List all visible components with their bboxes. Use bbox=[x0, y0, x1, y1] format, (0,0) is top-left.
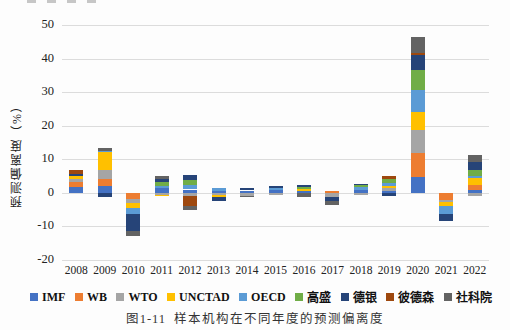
bar-segment-2019-WTO bbox=[382, 188, 396, 191]
legend-item-彼德森: 彼德森 bbox=[386, 288, 434, 306]
bar-segment-2020-WTO bbox=[411, 130, 425, 153]
x-axis-tick-labels: 2008200920102011201220132014201520162017… bbox=[62, 264, 489, 280]
figure-caption: 图1-11 样本机构在不同年度的预测偏离度 bbox=[0, 308, 510, 327]
legend-label: WB bbox=[87, 290, 107, 305]
bar-segment-2013-德银 bbox=[212, 197, 226, 201]
x-tick-label-2014: 2014 bbox=[236, 264, 259, 276]
y-tick-label: 0 bbox=[14, 185, 54, 200]
bar-segment-2009-UNCTAD bbox=[98, 152, 112, 170]
x-tick-label-2008: 2008 bbox=[65, 264, 88, 276]
bar-segment-2021-德银 bbox=[439, 214, 453, 222]
legend-item-WB: WB bbox=[75, 290, 107, 305]
gridline-20 bbox=[62, 126, 489, 127]
legend-item-德银: 德银 bbox=[341, 288, 377, 306]
legend-swatch-icon bbox=[341, 293, 349, 301]
bar-segment-2021-OECD bbox=[439, 206, 453, 213]
x-tick-label-2016: 2016 bbox=[292, 264, 315, 276]
x-tick-label-2022: 2022 bbox=[463, 264, 486, 276]
bar-segment-2022-德银 bbox=[468, 162, 482, 170]
legend-label: 彼德森 bbox=[398, 288, 434, 306]
bar-segment-2010-德银 bbox=[126, 214, 140, 231]
bar-segment-2014-社科院 bbox=[240, 196, 254, 197]
x-tick-label-2013: 2013 bbox=[207, 264, 230, 276]
bar-segment-2022-OECD bbox=[468, 176, 482, 177]
bar-segment-2022-高盛 bbox=[468, 170, 482, 176]
bar-segment-2022-UNCTAD bbox=[468, 178, 482, 185]
bar-segment-2009-德银 bbox=[98, 193, 112, 197]
legend-label: 高盛 bbox=[307, 288, 331, 306]
bar-segment-2011-德银 bbox=[155, 179, 169, 182]
bar-segment-2019-UNCTAD bbox=[382, 186, 396, 187]
bar-segment-2015-OECD bbox=[269, 188, 283, 190]
bar-segment-2009-社科院 bbox=[98, 148, 112, 151]
bar-segment-2016-德银 bbox=[297, 185, 311, 187]
y-tick-label: 30 bbox=[14, 84, 54, 99]
x-tick-label-2020: 2020 bbox=[406, 264, 429, 276]
x-tick-label-2017: 2017 bbox=[321, 264, 344, 276]
bar-segment-2012-彼德森 bbox=[183, 196, 197, 207]
legend-label: 社科院 bbox=[456, 288, 492, 306]
legend-item-社科院: 社科院 bbox=[444, 288, 492, 306]
bar-segment-2016-社科院 bbox=[297, 193, 311, 197]
bar-segment-2009-WTO bbox=[98, 170, 112, 179]
x-tick-label-2015: 2015 bbox=[264, 264, 287, 276]
bar-segment-2009-OECD bbox=[98, 151, 112, 152]
x-tick-label-2019: 2019 bbox=[378, 264, 401, 276]
bar-segment-2009-IMF bbox=[98, 186, 112, 193]
x-tick-label-2009: 2009 bbox=[93, 264, 116, 276]
y-tick-label: 10 bbox=[14, 151, 54, 166]
bar-segment-2016-高盛 bbox=[297, 187, 311, 189]
bar-segment-2022-WTO bbox=[468, 193, 482, 196]
legend-swatch-icon bbox=[386, 293, 394, 301]
bar-segment-2020-高盛 bbox=[411, 70, 425, 90]
bar-segment-2018-OECD bbox=[354, 187, 368, 190]
legend-label: OECD bbox=[251, 290, 286, 305]
y-tick-label: 20 bbox=[14, 118, 54, 133]
legend-swatch-icon bbox=[75, 293, 83, 301]
bar-segment-2012-社科院 bbox=[183, 206, 197, 209]
bar-segment-2020-OECD bbox=[411, 90, 425, 112]
gridline-30 bbox=[62, 92, 489, 93]
x-tick-label-2018: 2018 bbox=[349, 264, 372, 276]
bar-segment-2019-高盛 bbox=[382, 179, 396, 182]
bar-segment-2022-WB bbox=[468, 185, 482, 190]
x-tick-label-2012: 2012 bbox=[179, 264, 202, 276]
legend-swatch-icon bbox=[116, 293, 124, 301]
legend-swatch-icon bbox=[30, 293, 38, 301]
bar-segment-2019-OECD bbox=[382, 183, 396, 187]
bar-segment-2008-IMF bbox=[69, 187, 83, 193]
legend-swatch-icon bbox=[295, 293, 303, 301]
legend-label: 德银 bbox=[353, 288, 377, 306]
bar-segment-2022-社科院 bbox=[468, 155, 482, 162]
legend-item-UNCTAD: UNCTAD bbox=[167, 290, 229, 305]
bar-segment-2014-德银 bbox=[240, 188, 254, 191]
bar-segment-2019-彼德森 bbox=[382, 176, 396, 179]
bar-segment-2020-UNCTAD bbox=[411, 112, 425, 130]
y-tick-label: -20 bbox=[14, 252, 54, 267]
bar-segment-2011-高盛 bbox=[155, 182, 169, 186]
y-tick-label: 40 bbox=[14, 51, 54, 66]
bar-segment-2008-WTO bbox=[69, 179, 83, 182]
bar-segment-2018-高盛 bbox=[354, 185, 368, 187]
x-tick-label-2011: 2011 bbox=[150, 264, 173, 276]
bar-segment-2017-社科院 bbox=[325, 201, 339, 204]
bar-segment-2020-社科院 bbox=[411, 37, 425, 53]
bar-segment-2021-WB bbox=[439, 193, 453, 200]
bar-segment-2012-高盛 bbox=[183, 180, 197, 185]
bar-segment-2009-WB bbox=[98, 179, 112, 186]
legend-item-OECD: OECD bbox=[239, 290, 286, 305]
y-tick-label: -10 bbox=[14, 218, 54, 233]
bar-segment-2012-OECD bbox=[183, 185, 197, 189]
gridline-50 bbox=[62, 25, 489, 26]
bar-segment-2012-德银 bbox=[183, 175, 197, 180]
bar-segment-2015-德银 bbox=[269, 186, 283, 188]
bar-segment-2008-彼德森 bbox=[69, 170, 83, 174]
gridline-10 bbox=[62, 159, 489, 160]
legend-item-WTO: WTO bbox=[116, 290, 157, 305]
gridline-40 bbox=[62, 59, 489, 60]
chart-legend: IMFWBWTOUNCTADOECD高盛德银彼德森社科院 bbox=[0, 288, 510, 306]
bar-segment-2008-德银 bbox=[69, 174, 83, 176]
bar-segment-2015-WTO bbox=[269, 193, 283, 195]
gridline--20 bbox=[62, 260, 489, 261]
bar-segment-2019-德银 bbox=[382, 193, 396, 196]
